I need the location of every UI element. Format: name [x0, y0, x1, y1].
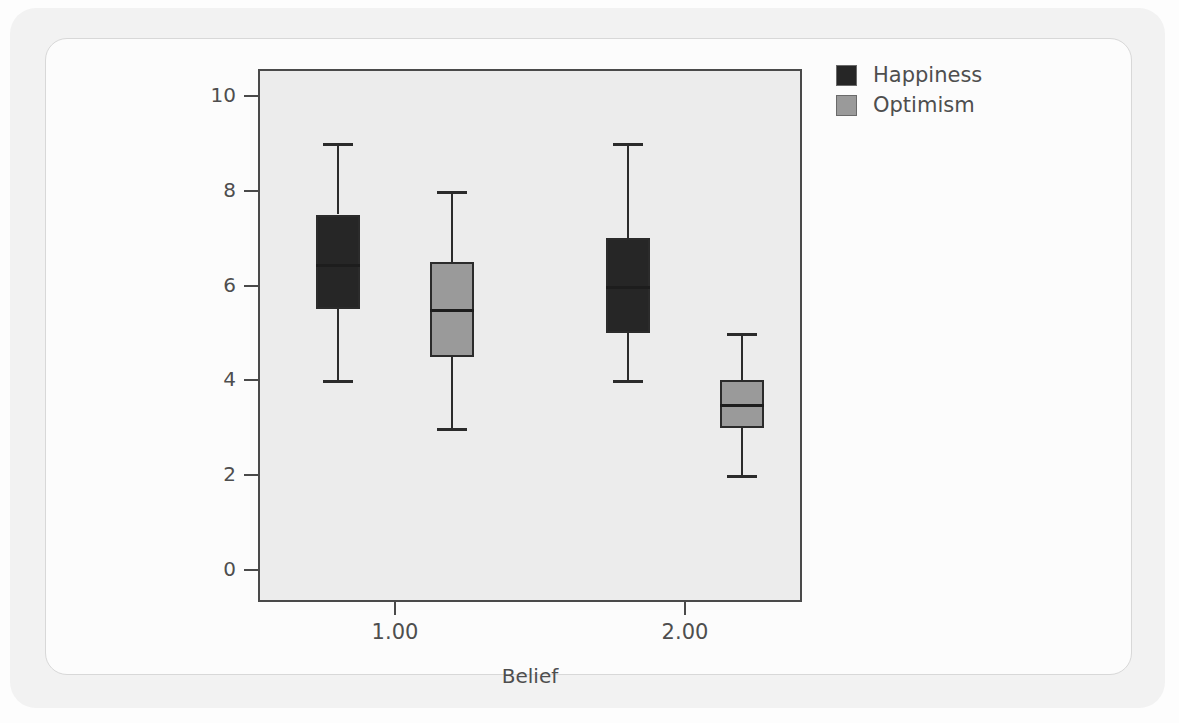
- y-axis-tick-label: 8: [192, 180, 236, 200]
- boxplot-median: [430, 309, 474, 312]
- y-axis-tick: [244, 95, 258, 97]
- y-axis-tick: [244, 285, 258, 287]
- whisker-cap-lower: [613, 380, 643, 383]
- chart-legend: Happiness Optimism: [836, 60, 1096, 120]
- y-axis-tick-label: 0: [192, 559, 236, 579]
- legend-swatch-optimism: [836, 95, 857, 116]
- whisker-lower: [451, 357, 453, 428]
- boxplot-median: [720, 404, 764, 407]
- whisker-cap-lower: [437, 428, 467, 431]
- legend-item-optimism: Optimism: [836, 90, 1096, 120]
- whisker-cap-upper: [727, 333, 757, 336]
- y-axis-tick: [244, 190, 258, 192]
- whisker-upper: [741, 333, 743, 380]
- x-axis-tick: [684, 602, 686, 615]
- boxplot-median: [606, 286, 650, 289]
- whisker-cap-lower: [727, 475, 757, 478]
- legend-label-happiness: Happiness: [873, 65, 982, 86]
- y-axis-tick-label: 6: [192, 275, 236, 295]
- x-axis-tick-label: 1.00: [335, 622, 455, 643]
- whisker-lower: [741, 428, 743, 475]
- whisker-upper: [337, 143, 339, 214]
- legend-swatch-happiness: [836, 65, 857, 86]
- y-axis-tick: [244, 474, 258, 476]
- legend-item-happiness: Happiness: [836, 60, 1096, 90]
- whisker-upper: [627, 143, 629, 238]
- y-axis-tick: [244, 379, 258, 381]
- plot-area: [258, 69, 802, 602]
- whisker-cap-upper: [437, 191, 467, 194]
- whisker-cap-upper: [613, 143, 643, 146]
- y-axis-tick-label: 2: [192, 464, 236, 484]
- whisker-cap-lower: [323, 380, 353, 383]
- whisker-lower: [337, 309, 339, 380]
- legend-label-optimism: Optimism: [873, 95, 975, 116]
- x-axis-title: Belief: [258, 664, 802, 688]
- x-axis-tick: [394, 602, 396, 615]
- y-axis-tick-label: 4: [192, 369, 236, 389]
- boxplot-median: [316, 264, 360, 267]
- boxplot-box: [316, 215, 360, 310]
- boxplot-figure: 0246810 1.002.00 Belief Happiness Optimi…: [0, 0, 1179, 723]
- x-axis-tick-label: 2.00: [625, 622, 745, 643]
- y-axis-tick: [244, 569, 258, 571]
- whisker-cap-upper: [323, 143, 353, 146]
- whisker-upper: [451, 191, 453, 262]
- whisker-lower: [627, 333, 629, 380]
- y-axis-tick-label: 10: [192, 85, 236, 105]
